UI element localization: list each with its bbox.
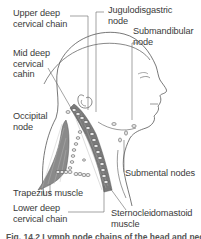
leader-lines (48, 12, 138, 212)
submandibular-nodes (112, 123, 136, 143)
label-occipital-node: Occipital node (13, 111, 47, 132)
lymph-node-diagram: Upper deep cervical chain Mid deep cervi… (0, 0, 201, 239)
label-submandibular-node: Submandibular node (133, 26, 194, 47)
jaw-line (98, 122, 136, 130)
label-upper-deep-cervical-chain: Upper deep cervical chain (13, 8, 67, 29)
label-lower-deep-cervical-chain: Lower deep cervical chain (13, 203, 67, 224)
eye (140, 77, 150, 79)
label-submental-nodes: Submental nodes (125, 168, 195, 179)
figure-caption: Fig. 14.2 Lymph node chains of the head … (6, 230, 201, 239)
occipital-node (66, 111, 70, 114)
label-jugulodigastric-node: Jugulodisgastric node (108, 5, 172, 26)
label-mid-deep-cervical-chain: Mid deep cervical cahin (13, 48, 50, 80)
label-sternocleidomastoid-muscle: Sternocleidomastoid muscle (111, 208, 192, 229)
posterior-chain-nodes (68, 131, 85, 170)
label-trapezius-muscle: Trapezius muscle (13, 188, 83, 199)
